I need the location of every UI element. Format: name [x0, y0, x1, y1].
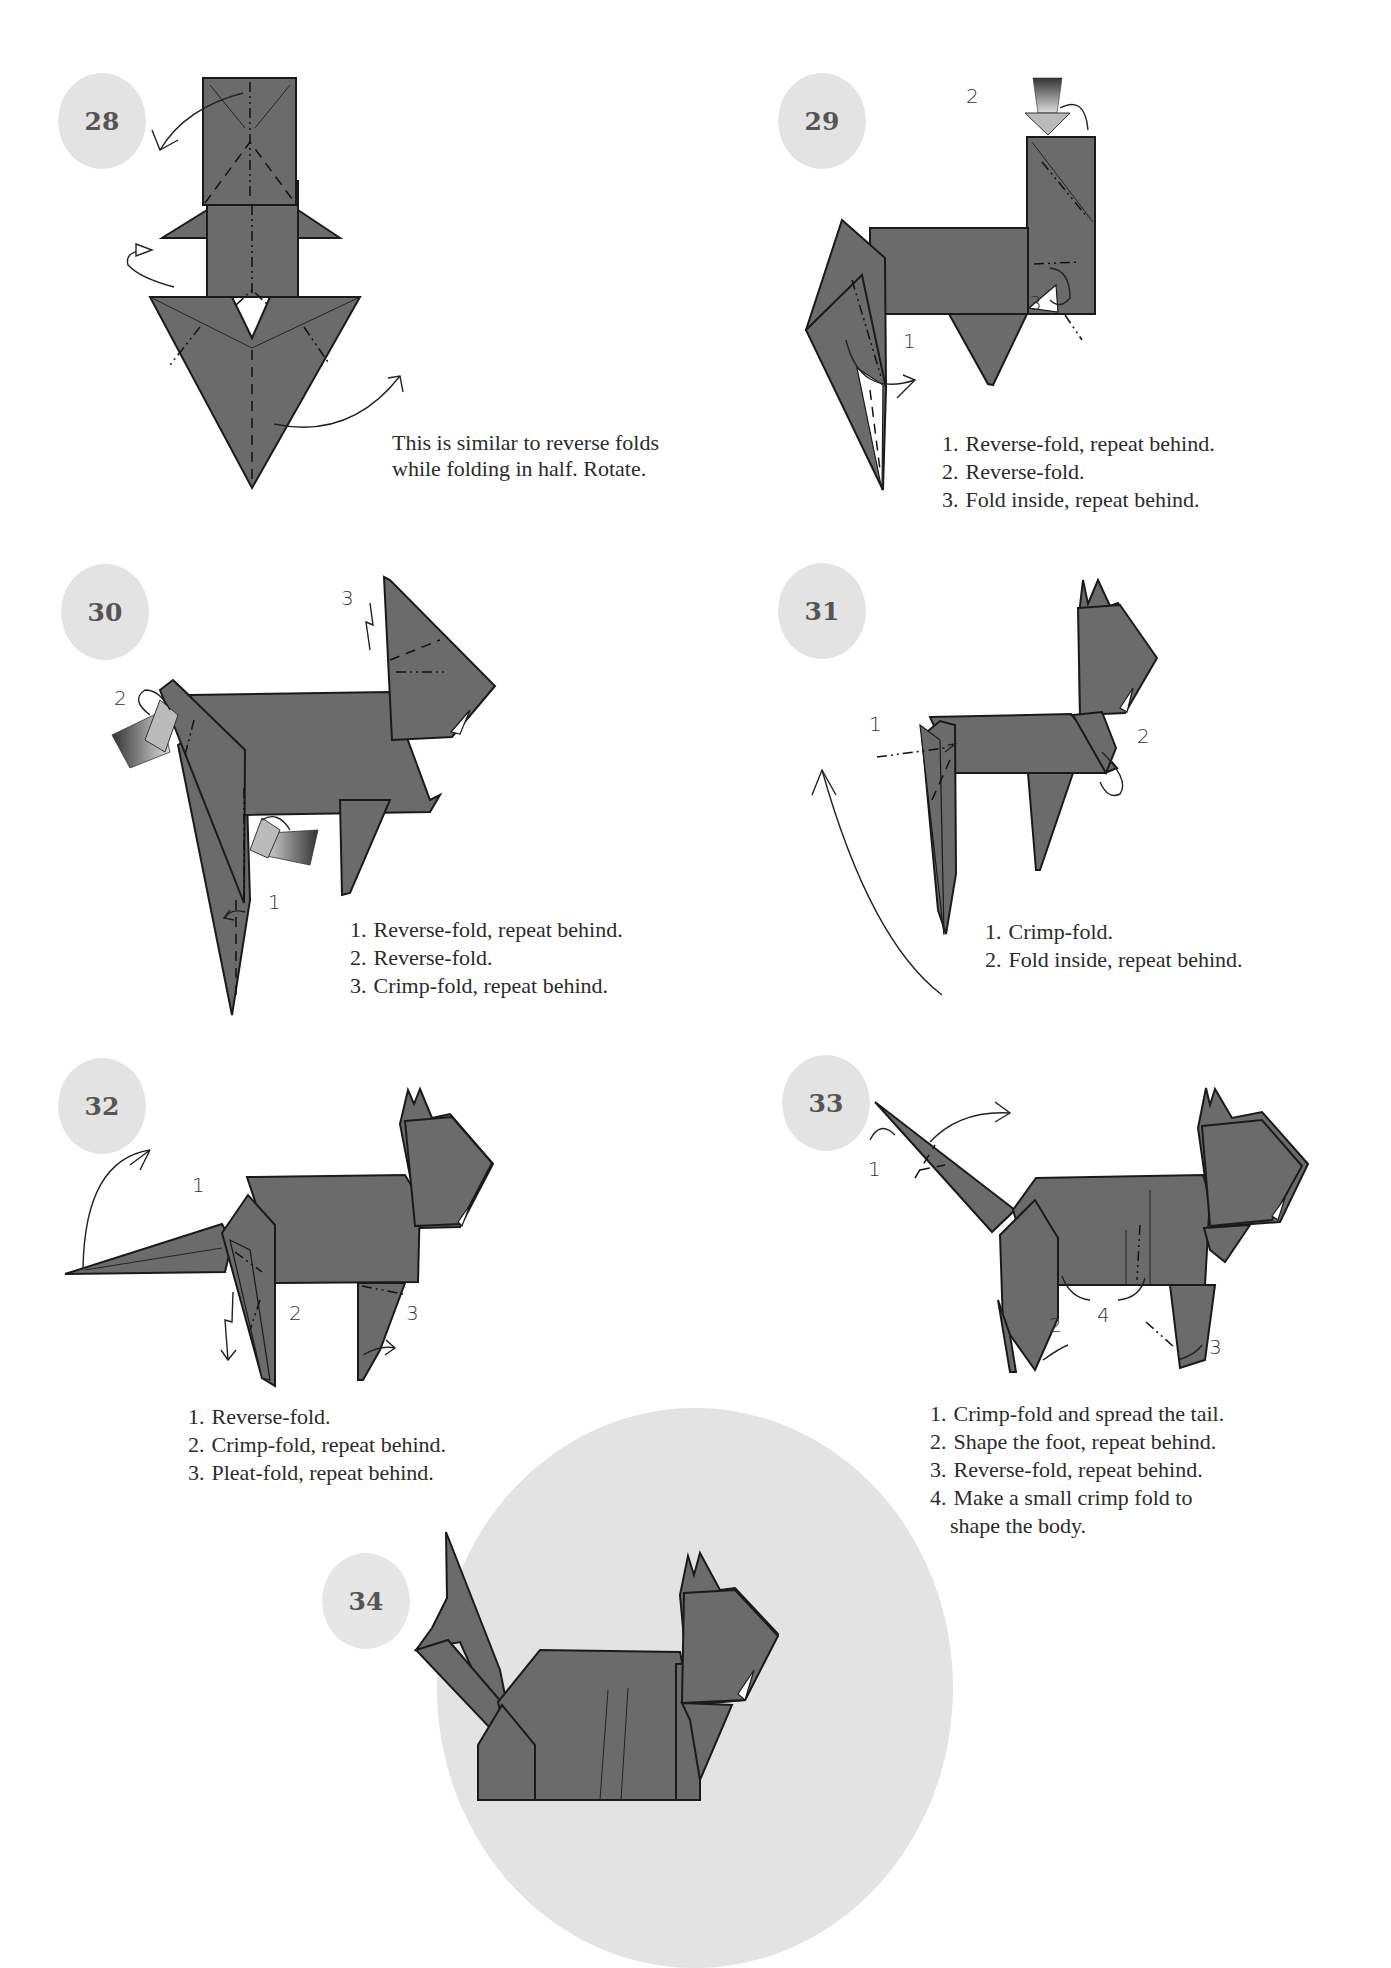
step-34-final-cat — [0, 0, 1391, 1800]
